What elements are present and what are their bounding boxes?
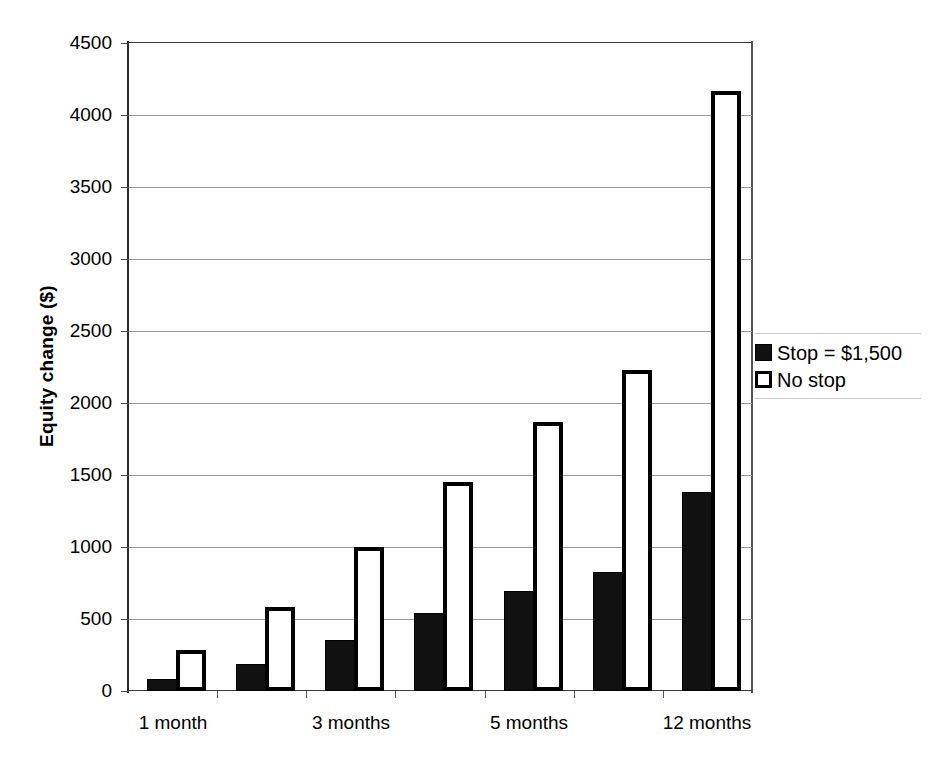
bar-no-stop-5 [622, 370, 652, 691]
plot-right-border [751, 41, 753, 693]
y-axis-tick-label-wrap: 2500 [42, 321, 112, 340]
y-axis-tick-label-wrap: 1500 [42, 465, 112, 484]
bar-no-stop-0 [176, 650, 206, 691]
y-axis-tick-label: 500 [42, 609, 112, 628]
bar-stop-3 [414, 613, 444, 691]
bar-no-stop-3 [443, 482, 473, 691]
y-axis-tick-label: 3500 [42, 177, 112, 196]
bar-no-stop-4 [533, 422, 563, 691]
y-axis-tick [121, 259, 129, 260]
y-axis-tick [121, 547, 129, 548]
y-axis-tick-label: 0 [42, 681, 112, 700]
x-axis-tick-label: 5 months [459, 712, 599, 734]
y-axis-tick-label: 2500 [42, 321, 112, 340]
y-axis-tick [121, 691, 129, 692]
y-axis-tick-label: 4000 [42, 105, 112, 124]
y-axis-tick [121, 187, 129, 188]
y-axis-tick-label: 3000 [42, 249, 112, 268]
x-axis-tick [485, 691, 486, 698]
bar-no-stop-2 [354, 547, 384, 691]
legend-item-no-stop: No stop [755, 366, 921, 393]
y-axis-tick-label-wrap: 1000 [42, 537, 112, 556]
gridline [128, 547, 752, 548]
gridline [128, 115, 752, 116]
y-axis-tick-label-wrap: 4000 [42, 105, 112, 124]
x-axis-tick-label: 1 month [103, 712, 243, 734]
y-axis-tick [121, 619, 129, 620]
y-axis-line [127, 41, 129, 693]
filled-square-icon [755, 344, 772, 361]
y-axis-title: Equity change ($) [36, 241, 58, 491]
bar-stop-5 [593, 572, 623, 691]
legend: Stop = $1,500 No stop [755, 333, 921, 399]
bar-stop-1 [236, 664, 266, 691]
gridline [128, 187, 752, 188]
y-axis-tick-label: 2000 [42, 393, 112, 412]
x-axis-tick-label: 3 months [281, 712, 421, 734]
x-axis-tick-label: 12 months [637, 712, 777, 734]
y-axis-tick [121, 475, 129, 476]
y-axis-tick-label-wrap: 3500 [42, 177, 112, 196]
legend-item-stop: Stop = $1,500 [755, 339, 921, 366]
y-axis-tick-label: 1000 [42, 537, 112, 556]
bar-stop-4 [504, 591, 534, 691]
y-axis-tick-label-wrap: 0 [42, 681, 112, 700]
bar-stop-2 [325, 640, 355, 691]
y-axis-tick-label-wrap: 500 [42, 609, 112, 628]
legend-label-stop: Stop = $1,500 [777, 343, 902, 363]
y-axis-tick-label-wrap: 3000 [42, 249, 112, 268]
y-axis-tick [121, 403, 129, 404]
x-axis-tick [306, 691, 307, 698]
x-axis-tick [574, 691, 575, 698]
y-axis-tick-label: 4500 [42, 33, 112, 52]
hollow-square-icon [755, 371, 772, 388]
y-axis-tick [121, 331, 129, 332]
plot-top-border [128, 42, 752, 43]
x-axis-tick [217, 691, 218, 698]
y-axis-tick-label: 1500 [42, 465, 112, 484]
gridline [128, 259, 752, 260]
y-axis-tick [121, 115, 129, 116]
x-axis-tick [663, 691, 664, 698]
bar-stop-0 [147, 679, 177, 691]
y-axis-tick-label-wrap: 4500 [42, 33, 112, 52]
bar-no-stop-1 [265, 607, 295, 691]
bar-chart: Equity change ($) 0500100015002000250030… [0, 0, 934, 778]
legend-label-no-stop: No stop [777, 370, 846, 390]
gridline [128, 331, 752, 332]
gridline [128, 475, 752, 476]
x-axis-tick [395, 691, 396, 698]
bar-stop-6 [682, 492, 712, 691]
gridline [128, 403, 752, 404]
y-axis-tick-label-wrap: 2000 [42, 393, 112, 412]
bar-no-stop-6 [711, 91, 741, 691]
y-axis-tick [121, 43, 129, 44]
